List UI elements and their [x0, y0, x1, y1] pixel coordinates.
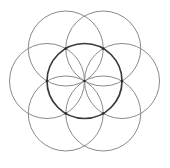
intersection-node	[46, 80, 49, 83]
intersection-node	[121, 80, 124, 83]
seed-of-life-diagram	[0, 0, 170, 168]
intersection-node	[102, 112, 105, 115]
intersection-node	[83, 80, 86, 83]
intersection-node	[64, 112, 67, 115]
intersection-node	[102, 47, 105, 50]
intersection-nodes	[46, 47, 124, 115]
intersection-node	[64, 47, 67, 50]
